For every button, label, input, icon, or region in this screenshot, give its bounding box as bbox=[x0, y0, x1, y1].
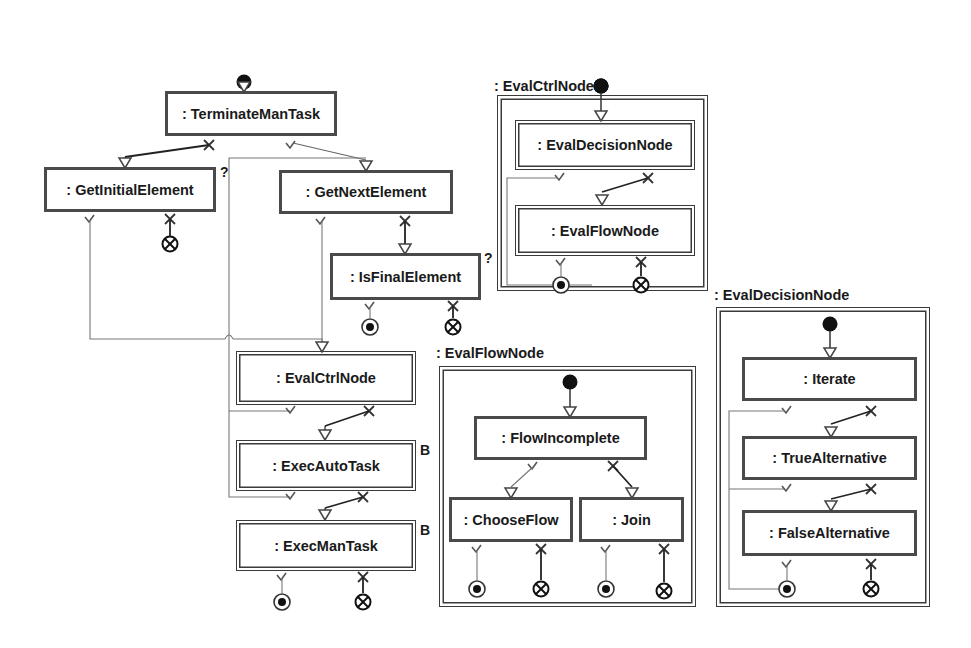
node-exec-man-task[interactable]: : ExecManTask bbox=[236, 520, 416, 571]
node-label: : TrueAlternative bbox=[772, 450, 886, 466]
node-get-initial-element[interactable]: : GetInitialElement bbox=[44, 167, 216, 212]
node-label: : Iterate bbox=[803, 371, 855, 387]
node-label: : FalseAlternative bbox=[769, 525, 890, 541]
node-eval-flow-node[interactable]: : EvalFlowNode bbox=[515, 205, 695, 256]
container-eval-flow-node bbox=[439, 366, 696, 607]
diagram-canvas: : TerminateManTask : GetInitialElement ?… bbox=[0, 0, 971, 648]
optional-marker: ? bbox=[220, 164, 229, 180]
node-label: : ExecManTask bbox=[274, 538, 378, 554]
node-label: : ExecAutoTask bbox=[272, 458, 380, 474]
node-terminate-man-task[interactable]: : TerminateManTask bbox=[165, 91, 337, 136]
node-choose-flow[interactable]: : ChooseFlow bbox=[449, 497, 573, 542]
container-label-eval-flow-node: : EvalFlowNode bbox=[436, 345, 544, 361]
node-false-alternative[interactable]: : FalseAlternative bbox=[742, 510, 917, 556]
node-get-next-element[interactable]: : GetNextElement bbox=[279, 170, 453, 214]
breakpoint-marker: B bbox=[420, 442, 430, 458]
node-true-alternative[interactable]: : TrueAlternative bbox=[742, 436, 917, 480]
optional-marker: ? bbox=[484, 250, 493, 266]
container-label-eval-ctrl-node: : EvalCtrlNode bbox=[494, 78, 594, 94]
node-label: : ChooseFlow bbox=[463, 512, 558, 528]
node-label: : GetInitialElement bbox=[66, 182, 193, 198]
node-exec-auto-task[interactable]: : ExecAutoTask bbox=[236, 440, 416, 491]
node-label: : FlowIncomplete bbox=[501, 430, 619, 446]
node-iterate[interactable]: : Iterate bbox=[742, 357, 917, 401]
node-eval-ctrl-node[interactable]: : EvalCtrlNode bbox=[236, 351, 416, 405]
container-label-eval-decision-node: : EvalDecisionNode bbox=[714, 287, 849, 303]
node-is-final-element[interactable]: : IsFinalElement bbox=[330, 253, 481, 300]
node-eval-decision-node[interactable]: : EvalDecisionNode bbox=[515, 120, 695, 170]
node-label: : EvalCtrlNode bbox=[276, 370, 376, 386]
node-label: : IsFinalElement bbox=[350, 269, 461, 285]
node-label: : Join bbox=[612, 512, 651, 528]
node-label: : GetNextElement bbox=[306, 184, 427, 200]
node-flow-incomplete[interactable]: : FlowIncomplete bbox=[474, 416, 647, 460]
node-join[interactable]: : Join bbox=[579, 497, 684, 542]
node-label: : EvalDecisionNode bbox=[537, 137, 672, 153]
node-label: : TerminateManTask bbox=[182, 106, 320, 122]
breakpoint-marker: B bbox=[420, 522, 430, 538]
node-label: : EvalFlowNode bbox=[551, 223, 659, 239]
